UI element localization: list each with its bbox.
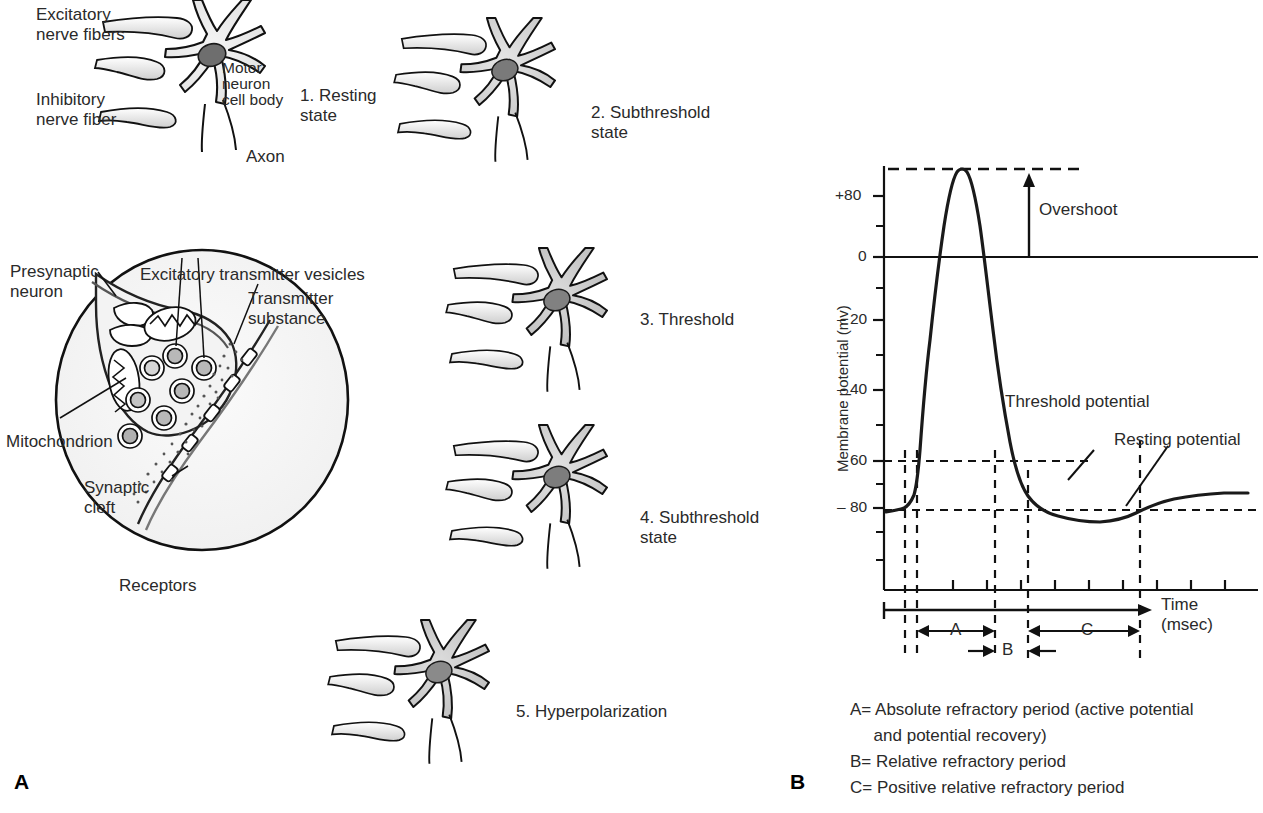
legend-line-2: and potential recovery): [850, 726, 1047, 746]
membrane-potential-curve: [886, 169, 1248, 522]
label-receptors: Receptors: [119, 576, 196, 596]
panel-a-letter: A: [14, 770, 29, 794]
stage-label-4: 4. Subthreshold state: [640, 508, 759, 548]
neuron-diagram-1: [95, 0, 325, 185]
overshoot-arrow: [1023, 173, 1035, 257]
panel-b-letter: B: [790, 770, 805, 794]
label-inhibitory-nerve-fiber: Inhibitory nerve fiber: [36, 90, 116, 130]
neuron-diagram-4: [440, 425, 670, 600]
neuron-diagram-2: [388, 18, 618, 193]
legend-line-4: C= Positive relative refractory period: [850, 778, 1124, 798]
resting-leader-line: [1126, 446, 1168, 506]
period-mark-b: B: [1002, 640, 1013, 660]
neuron-diagram-3: [440, 248, 670, 423]
label-excitatory-transmitter-vesicles: Excitatory transmitter vesicles: [140, 265, 365, 285]
ytick-label-0: 0: [858, 247, 867, 265]
period-mark-a: A: [950, 620, 961, 640]
label-mitochondrion: Mitochondrion: [6, 432, 113, 452]
ytick-label-minus80: – 80: [837, 498, 867, 516]
stage-label-5: 5. Hyperpolarization: [516, 702, 667, 722]
legend-line-3: B= Relative refractory period: [850, 752, 1066, 772]
annotation-time-axis: Time (msec): [1161, 595, 1213, 635]
annotation-threshold-potential: Threshold potential: [1005, 392, 1150, 412]
label-motor-neuron-cell-body: Motor neuron cell body: [222, 60, 283, 108]
label-transmitter-substance: Transmitter substance: [248, 289, 333, 329]
label-axon: Axon: [246, 147, 285, 167]
y-axis-title: Membrane potential (mv): [834, 305, 851, 472]
time-arrow: [884, 602, 1152, 619]
label-presynaptic-neuron: Presynaptic neuron: [10, 262, 99, 302]
period-mark-c: C: [1081, 620, 1093, 640]
ytick-label-80: +80: [835, 186, 861, 204]
threshold-leader-line: [1068, 450, 1094, 480]
annotation-overshoot: Overshoot: [1039, 200, 1117, 220]
figure-root: Excitatory nerve fibers Inhibitory nerve…: [0, 0, 1263, 813]
stage-label-1: 1. Resting state: [300, 86, 377, 126]
stage-label-3: 3. Threshold: [640, 310, 734, 330]
label-synaptic-cleft: Synaptic cleft: [84, 478, 149, 518]
label-excitatory-nerve-fibers: Excitatory nerve fibers: [36, 5, 125, 45]
legend-line-1: A= Absolute refractory period (active po…: [850, 700, 1194, 720]
stage-label-2: 2. Subthreshold state: [591, 103, 710, 143]
annotation-resting-potential: Resting potential: [1114, 430, 1241, 450]
